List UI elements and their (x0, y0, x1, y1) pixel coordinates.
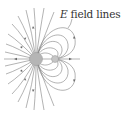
field-lines-label: E field lines (60, 8, 120, 20)
large-charge (30, 53, 43, 66)
small-charge (52, 56, 59, 63)
field-label-text: field lines (67, 8, 120, 20)
